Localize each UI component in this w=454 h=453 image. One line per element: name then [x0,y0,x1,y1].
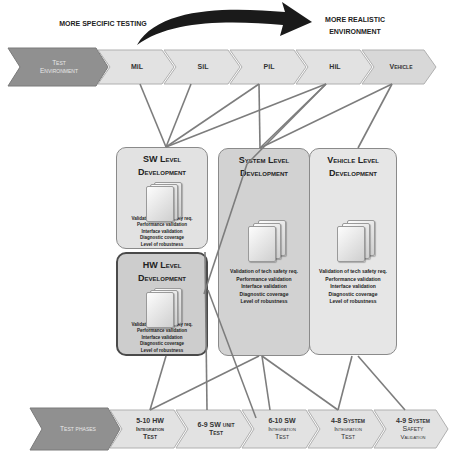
vehicle-item: Performance validation [319,276,387,284]
phase-line: Safety [403,425,424,433]
vehicle-box-items: Validation of tech safety req. Performan… [319,268,387,306]
system-item: Level of robustness [230,298,298,306]
phase-line: Integration [136,425,164,433]
system-box-items: Validation of tech safety req. Performan… [230,268,298,306]
system-item: Interface validation [230,283,298,291]
hw-item: Level of robustness [131,348,192,355]
document-stack-icon [142,288,182,320]
hw-title-line2: Development [138,272,186,285]
vehicle-item: Level of robustness [319,298,387,306]
sw-title-line1: SW Level [138,153,186,166]
phase-line: 5-10 HW [136,417,164,425]
phase-line: 4-9 System [396,417,430,425]
phase-line: Test [143,433,157,441]
sw-level-development-box: SW Level Development Validation of tech … [116,147,208,249]
test-environment-header: Test Environment [18,50,100,84]
sw-box-title: SW Level Development [138,153,186,179]
document-stack-icon [333,220,373,264]
stage-pil[interactable]: PiL [240,50,298,84]
system-item: Performance validation [230,276,298,284]
system-title-line2: Development [239,167,289,180]
phase-system-safety-validation[interactable]: 4-9 System Safety Validation [384,410,442,448]
vehicle-item: Interface validation [319,283,387,291]
phase-system-integration-test[interactable]: 4-8 System Integration Test [318,410,378,448]
sw-title-line2: Development [138,166,186,179]
stage-vehicle[interactable]: Vehicle [372,50,430,84]
phase-line: Integration [334,425,362,433]
stage-sil[interactable]: SiL [174,50,232,84]
phase-sw-integration-test[interactable]: 6-10 SW Integration Test [252,410,312,448]
system-title-line1: System Level [239,154,289,167]
sw-item: Performance validation [131,222,192,229]
vehicle-level-development-box: Vehicle Level Development Validation of … [309,148,397,355]
stage-hil[interactable]: HiL [306,50,364,84]
vehicle-item: Diagnostic coverage [319,291,387,299]
phase-line: 6-9 SW unit [198,421,235,429]
phase-line: 6-10 SW [268,417,295,425]
system-item: Validation of tech safety req. [230,268,298,276]
hw-item: Performance validation [131,328,192,335]
phase-line: Test [209,429,223,437]
phase-line: 4-8 System [331,417,365,425]
test-phases-header: Test phases [42,410,114,448]
system-item: Diagnostic coverage [230,291,298,299]
document-stack-icon [244,220,284,264]
sw-item: Diagnostic coverage [131,235,192,242]
hw-level-development-box: HW Level Development Validation of tech … [116,252,208,356]
system-level-development-box: System Level Development Validation of t… [218,148,310,356]
vehicle-box-title: Vehicle Level Development [327,154,379,180]
vehicle-title-line1: Vehicle Level [327,154,379,167]
document-stack-icon [142,182,182,214]
test-environment-line2: Environment [40,67,78,75]
sw-item: Level of robustness [131,242,192,249]
phase-line: Test [341,433,355,441]
test-environment-line1: Test [52,59,66,67]
phase-line: Integration [268,425,296,433]
phase-hw-integration-test[interactable]: 5-10 HW Integration Test [120,410,180,448]
phase-line: Test [275,433,289,441]
hw-box-title: HW Level Development [138,259,186,285]
hw-item: Diagnostic coverage [131,341,192,348]
vehicle-title-line2: Development [327,167,379,180]
system-box-title: System Level Development [239,154,289,180]
vehicle-item: Validation of tech safety req. [319,268,387,276]
hw-title-line1: HW Level [138,259,186,272]
phase-sw-unit-test[interactable]: 6-9 SW unit Test [186,410,246,448]
phase-line: Validation [401,433,426,441]
stage-mil[interactable]: MiL [108,50,166,84]
